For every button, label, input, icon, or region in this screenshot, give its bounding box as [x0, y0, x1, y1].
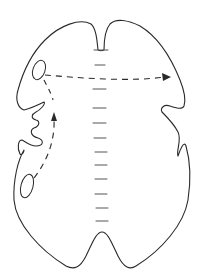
- horizontal-arrow: [45, 73, 171, 81]
- lower-left-oval: [18, 173, 36, 199]
- midline-dashes: [93, 50, 108, 221]
- diagram-canvas: [0, 0, 201, 279]
- body-outline: [14, 20, 190, 267]
- upper-left-oval: [30, 59, 48, 82]
- diagram-svg: [0, 0, 201, 279]
- arrowhead-right-icon: [162, 73, 171, 81]
- arrowhead-up-icon: [51, 112, 57, 121]
- vertical-arrow: [34, 80, 57, 178]
